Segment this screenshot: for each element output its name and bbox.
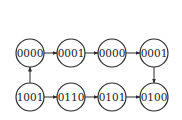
state-diagram: 0000 0001 0000 0001 1001 0110 0101 0100 <box>0 0 182 120</box>
state-label: 0101 <box>99 91 126 103</box>
state-label: 0001 <box>58 47 85 59</box>
state-node: 0000 <box>16 39 44 67</box>
state-node: 0001 <box>140 39 168 67</box>
state-node: 0100 <box>140 83 168 111</box>
state-node: 1001 <box>16 83 44 111</box>
state-label: 0001 <box>141 47 168 59</box>
state-label: 0000 <box>99 47 126 59</box>
state-label: 1001 <box>17 91 44 103</box>
state-label: 0000 <box>17 47 44 59</box>
state-node: 0001 <box>57 39 85 67</box>
state-label: 0100 <box>141 91 168 103</box>
state-node: 0110 <box>57 83 85 111</box>
state-node: 0101 <box>98 83 126 111</box>
state-node: 0000 <box>98 39 126 67</box>
state-label: 0110 <box>58 91 85 103</box>
